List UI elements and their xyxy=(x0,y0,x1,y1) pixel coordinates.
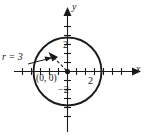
radius-arrowhead xyxy=(49,52,59,62)
y-axis-label: y xyxy=(72,2,76,12)
coordinate-plane-graphic xyxy=(0,0,147,140)
y-axis-tick-label-negative-2: −2 xyxy=(58,85,69,95)
y-axis-tick-label-2: 2 xyxy=(63,40,68,50)
y-axis-arrowhead xyxy=(64,7,72,16)
origin-point xyxy=(65,69,70,74)
radius-label: r = 3 xyxy=(2,52,23,62)
origin-label: (0, 0) xyxy=(36,74,57,84)
x-axis-label: x xyxy=(136,64,140,74)
x-axis-tick-label-2: 2 xyxy=(88,76,93,86)
figure-canvas: x y 2 −2 2 (0, 0) r = 3 xyxy=(0,0,147,140)
